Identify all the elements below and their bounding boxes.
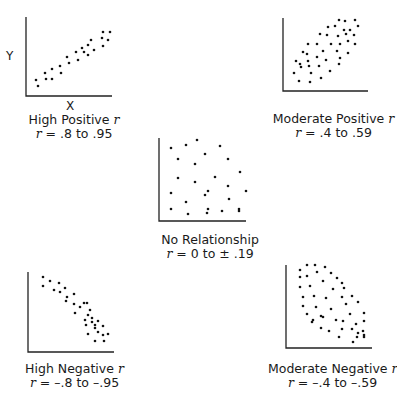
data-point <box>356 336 359 339</box>
data-point <box>42 276 45 279</box>
data-point <box>64 287 67 290</box>
data-point <box>87 333 90 336</box>
data-point <box>338 19 341 22</box>
data-point <box>185 144 188 147</box>
data-point <box>91 317 94 320</box>
data-point <box>194 181 197 184</box>
data-point <box>91 321 94 324</box>
data-point <box>228 198 231 201</box>
data-point <box>341 296 344 299</box>
data-point <box>84 319 87 322</box>
data-point <box>42 285 45 288</box>
data-point <box>170 147 173 150</box>
data-point <box>330 308 333 311</box>
caption-no-relationship: No Relationship r = 0 to ± .19 <box>150 233 270 261</box>
data-point <box>102 325 105 328</box>
caption-high-positive: High Positive r r = .8 to .95 <box>14 113 134 141</box>
data-point <box>102 31 105 34</box>
data-point <box>320 327 323 330</box>
data-point <box>318 65 321 68</box>
data-point <box>227 185 230 188</box>
data-point <box>326 34 329 37</box>
data-point <box>307 43 310 46</box>
data-point <box>352 341 355 344</box>
data-point <box>306 53 309 56</box>
caption-moderate-negative: Moderate Negative r r = –.4 to –.59 <box>268 362 397 390</box>
data-point <box>299 63 302 66</box>
data-point <box>336 50 339 53</box>
data-point <box>170 192 173 195</box>
data-point <box>35 79 38 82</box>
data-point <box>196 139 199 142</box>
data-point <box>194 163 197 166</box>
data-point <box>53 289 56 292</box>
data-point <box>60 72 63 75</box>
data-point <box>363 336 366 339</box>
data-point <box>97 331 100 334</box>
data-point <box>330 43 333 46</box>
data-point <box>204 194 207 197</box>
data-point <box>354 19 357 22</box>
data-point <box>351 295 354 298</box>
scatter-plots-figure <box>0 0 397 401</box>
data-point <box>73 303 76 306</box>
data-point <box>207 208 210 211</box>
data-point <box>300 66 303 69</box>
data-point <box>68 62 71 65</box>
data-point <box>302 296 305 299</box>
data-point <box>102 45 105 48</box>
data-point <box>227 158 230 161</box>
data-point <box>107 333 110 336</box>
data-point <box>355 323 358 326</box>
data-point <box>316 43 319 46</box>
data-point <box>336 277 339 280</box>
axes <box>26 17 112 96</box>
data-point <box>81 47 84 50</box>
data-point <box>65 300 68 303</box>
data-point <box>293 72 296 75</box>
data-point <box>73 293 76 296</box>
data-point <box>90 39 93 42</box>
data-point <box>314 264 317 267</box>
data-point <box>339 43 342 46</box>
data-point <box>353 34 356 37</box>
data-point <box>325 297 328 300</box>
data-point <box>345 303 348 306</box>
data-point <box>102 334 105 337</box>
data-point <box>298 80 301 83</box>
data-point <box>66 296 69 299</box>
data-point <box>343 287 346 290</box>
data-point <box>207 190 210 193</box>
data-point <box>44 72 47 75</box>
axes <box>28 272 114 352</box>
caption-title: Moderate Positive r <box>270 112 397 126</box>
data-point <box>89 309 92 312</box>
data-point <box>329 70 332 73</box>
data-point <box>299 269 302 272</box>
data-point <box>341 282 344 285</box>
data-point <box>302 51 305 54</box>
caption-range: r = .4 to .59 <box>270 126 397 140</box>
data-point <box>107 39 110 42</box>
data-point <box>334 25 337 28</box>
data-point <box>295 60 298 63</box>
caption-title: Moderate Negative r <box>268 362 397 376</box>
data-point <box>337 35 340 38</box>
data-point <box>315 306 318 309</box>
caption-range: r = –.8 to –.95 <box>12 376 137 390</box>
data-point <box>170 208 173 211</box>
data-point <box>341 328 344 331</box>
data-point <box>330 272 333 275</box>
data-point <box>309 285 312 288</box>
data-point <box>85 324 88 327</box>
caption-title: No Relationship <box>150 233 270 247</box>
data-point <box>322 280 325 283</box>
caption-moderate-positive: Moderate Positive r r = .4 to .59 <box>270 112 397 140</box>
data-point <box>349 313 352 316</box>
data-point <box>313 295 316 298</box>
data-point <box>338 336 341 339</box>
data-point <box>327 26 330 29</box>
data-point <box>325 59 328 62</box>
caption-high-negative: High Negative r r = –.8 to –.95 <box>12 362 137 390</box>
data-point <box>77 59 80 62</box>
